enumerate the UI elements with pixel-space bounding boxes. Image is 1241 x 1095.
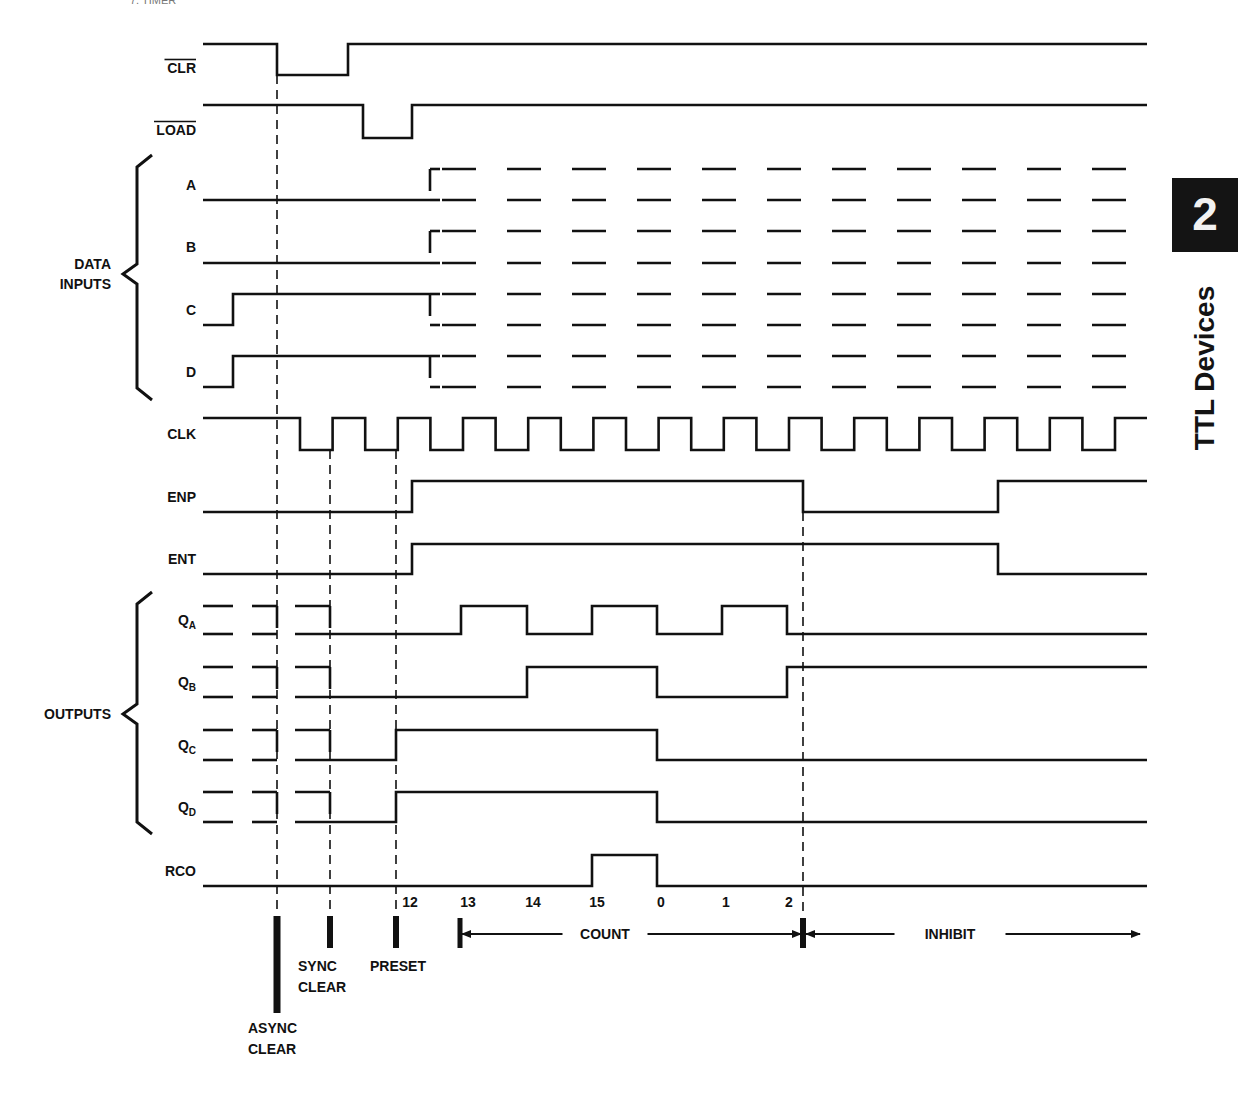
signal-ent xyxy=(203,544,1147,574)
signal-qc xyxy=(203,730,1147,760)
clock-waveform xyxy=(203,418,1147,450)
signal-label-clk: CLK xyxy=(167,426,196,442)
section-number: 2 xyxy=(1172,186,1238,242)
waveform xyxy=(203,105,1147,138)
signal-label-clr: CLR xyxy=(167,60,196,76)
count-value: 12 xyxy=(402,894,418,910)
waveform xyxy=(203,44,1147,75)
signal-a xyxy=(203,169,1126,200)
signal-label-qd: QD xyxy=(178,799,196,818)
signal-labels: CLRLOADABCDCLKENPENTQAQBQCQDRCO xyxy=(154,60,196,879)
waveform xyxy=(330,606,1147,634)
brace-out xyxy=(123,592,152,834)
sync-clear-label: SYNC xyxy=(298,958,337,974)
count-value: 2 xyxy=(785,894,793,910)
signal-enp xyxy=(203,481,1147,512)
section-tab: 2 xyxy=(1172,178,1238,252)
async-clear-label: ASYNC xyxy=(248,1020,297,1036)
signal-label-qa: QA xyxy=(178,612,196,631)
async-clear-marker xyxy=(274,916,281,1013)
signal-clk xyxy=(203,418,1147,450)
signal-label-d: D xyxy=(186,364,196,380)
async-clear-label: CLEAR xyxy=(248,1041,296,1057)
group-label-data: DATA xyxy=(74,256,111,272)
waveform xyxy=(330,792,1147,822)
count-value: 1 xyxy=(722,894,730,910)
waveform xyxy=(203,481,1147,512)
waveform xyxy=(203,356,430,387)
preset-label: PRESET xyxy=(370,958,426,974)
count-span-label: COUNT xyxy=(580,926,630,942)
waveforms xyxy=(203,44,1147,886)
signal-qb xyxy=(203,667,1147,697)
waveform xyxy=(203,294,430,325)
signal-qa xyxy=(203,606,1147,634)
waveform xyxy=(330,667,1147,697)
group-braces: DATAINPUTSOUTPUTS xyxy=(44,155,152,834)
signal-label-b: B xyxy=(186,239,196,255)
signal-label-rco: RCO xyxy=(165,863,196,879)
signal-c xyxy=(203,294,1126,325)
group-label-data: INPUTS xyxy=(60,276,111,292)
preset-marker xyxy=(393,916,399,948)
count-value: 14 xyxy=(525,894,541,910)
count-value: 13 xyxy=(460,894,476,910)
section-title: TTL Devices xyxy=(1189,286,1221,450)
signal-label-c: C xyxy=(186,302,196,318)
signal-load xyxy=(203,105,1147,138)
signal-label-qb: QB xyxy=(178,674,196,693)
waveform xyxy=(330,730,1147,760)
sync-clear-marker xyxy=(327,916,333,948)
signal-label-enp: ENP xyxy=(167,489,196,505)
brace-data xyxy=(123,155,152,400)
signal-b xyxy=(203,231,1126,263)
signal-label-a: A xyxy=(186,177,196,193)
inhibit-span-label: INHIBIT xyxy=(925,926,976,942)
section-title-vertical: TTL Devices xyxy=(1172,268,1238,468)
signal-d xyxy=(203,356,1126,387)
count-value: 15 xyxy=(589,894,605,910)
signal-label-load: LOAD xyxy=(156,122,196,138)
waveform xyxy=(203,544,1147,574)
count-start-marker xyxy=(458,918,463,948)
inhibit-marker xyxy=(800,918,806,948)
count-value: 0 xyxy=(657,894,665,910)
signal-rco xyxy=(203,855,1147,886)
signal-clr xyxy=(203,44,1147,75)
group-label-out: OUTPUTS xyxy=(44,706,111,722)
waveform xyxy=(203,855,1147,886)
sync-clear-label: CLEAR xyxy=(298,979,346,995)
signal-label-ent: ENT xyxy=(168,551,196,567)
signal-qd xyxy=(203,792,1147,822)
signal-label-qc: QC xyxy=(178,737,196,756)
timing-diagram: CLRLOADABCDCLKENPENTQAQBQCQDRCO DATAINPU… xyxy=(0,0,1241,1095)
sequence-annotations: 12131415012ASYNCCLEARSYNCCLEARPRESETCOUN… xyxy=(248,894,1140,1057)
